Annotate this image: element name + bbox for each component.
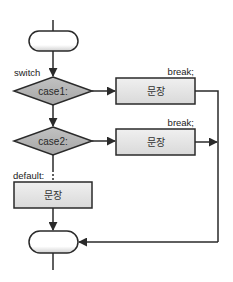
- case1-label: case1:: [38, 86, 67, 97]
- case2-label: case2:: [38, 136, 67, 147]
- end-terminator: [29, 231, 78, 253]
- default-label: default:: [13, 170, 44, 181]
- case2-statement-text: 문장: [147, 137, 165, 148]
- case1-statement-text: 문장: [147, 86, 165, 97]
- break1-line: [195, 91, 218, 242]
- switch-flowchart: switch case1: break; 문장 case2: break; 문장…: [0, 0, 233, 282]
- default-statement-text: 문장: [44, 190, 62, 201]
- start-terminator: [29, 31, 78, 51]
- switch-label: switch: [14, 67, 40, 78]
- break-label-2: break;: [168, 117, 194, 128]
- break-label-1: break;: [168, 66, 194, 77]
